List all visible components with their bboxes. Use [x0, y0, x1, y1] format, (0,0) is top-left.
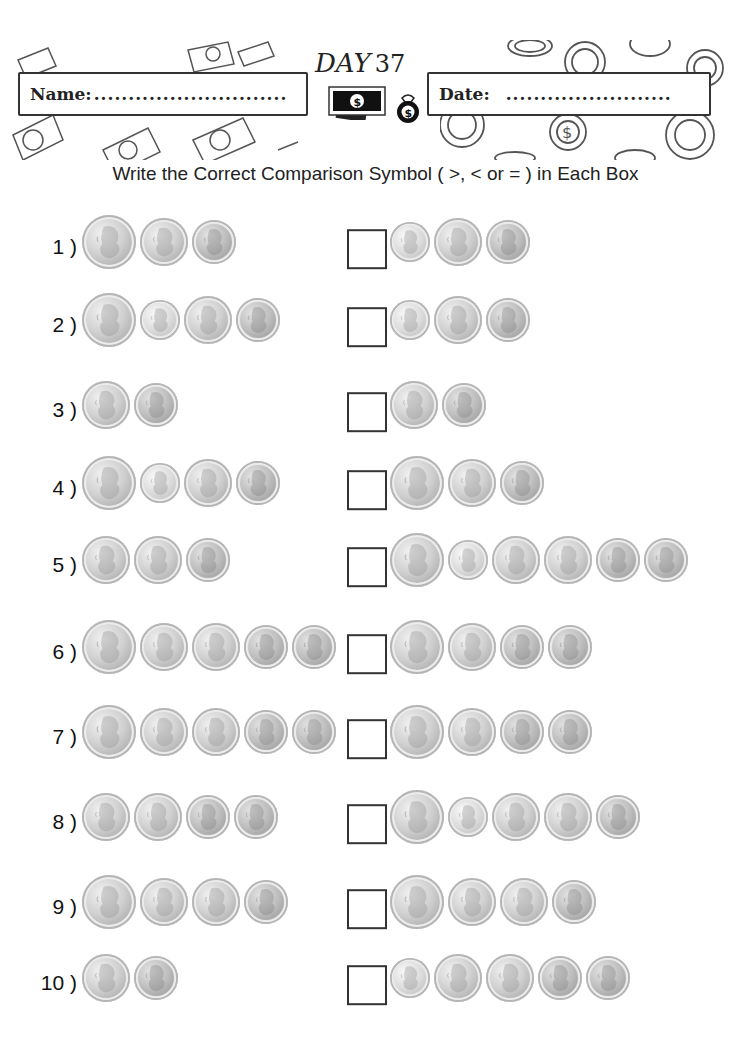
dime-coin-icon: [140, 463, 180, 503]
answer-box[interactable]: [347, 307, 387, 347]
dime-coin-icon: [140, 300, 180, 340]
penny-coin-icon: [486, 298, 530, 342]
nickel-coin-icon: [500, 878, 548, 926]
right-coin-group: [390, 872, 596, 932]
answer-box[interactable]: [347, 392, 387, 432]
nickel-coin-icon: [192, 708, 240, 756]
penny-coin-icon: [500, 461, 544, 505]
problem-row: 3 ): [0, 375, 751, 435]
left-coin-group: [82, 702, 336, 762]
penny-coin-icon: [596, 795, 640, 839]
left-coin-group: [82, 617, 336, 677]
problem-row: 10 ): [0, 948, 751, 1008]
problem-row: 9 ): [0, 872, 751, 932]
worksheet-header: $ Name: ............................ DAY…: [0, 40, 751, 160]
problem-row: 1 ): [0, 212, 751, 272]
date-field[interactable]: Date: ........................: [427, 72, 711, 116]
nickel-coin-icon: [134, 536, 182, 584]
money-bag-icon: $: [392, 92, 424, 128]
left-coin-group: [82, 375, 178, 435]
answer-box[interactable]: [347, 229, 387, 269]
nickel-coin-icon: [134, 793, 182, 841]
penny-coin-icon: [236, 298, 280, 342]
quarter-coin-icon: [82, 456, 136, 510]
nickel-coin-icon: [544, 536, 592, 584]
day-title: DAY37: [315, 48, 405, 78]
nickel-coin-icon: [140, 878, 188, 926]
quarter-coin-icon: [82, 620, 136, 674]
nickel-coin-icon: [434, 296, 482, 344]
penny-coin-icon: [586, 956, 630, 1000]
penny-coin-icon: [292, 625, 336, 669]
answer-box[interactable]: [347, 547, 387, 587]
right-coin-group: [390, 948, 630, 1008]
name-blank-line: ............................: [94, 84, 288, 104]
nickel-coin-icon: [448, 708, 496, 756]
penny-coin-icon: [186, 795, 230, 839]
quarter-coin-icon: [82, 705, 136, 759]
answer-box[interactable]: [347, 634, 387, 674]
answer-box[interactable]: [347, 470, 387, 510]
penny-coin-icon: [236, 461, 280, 505]
penny-coin-icon: [244, 625, 288, 669]
dime-coin-icon: [448, 797, 488, 837]
quarter-coin-icon: [82, 293, 136, 347]
name-field[interactable]: Name: ............................: [18, 72, 308, 116]
penny-coin-icon: [552, 880, 596, 924]
dime-coin-icon: [390, 300, 430, 340]
right-coin-group: [390, 702, 592, 762]
left-coin-group: [82, 948, 178, 1008]
nickel-coin-icon: [544, 793, 592, 841]
penny-coin-icon: [486, 220, 530, 264]
answer-box[interactable]: [347, 965, 387, 1005]
problem-number: 2 ): [52, 313, 77, 337]
penny-coin-icon: [244, 710, 288, 754]
problem-number: 6 ): [52, 640, 77, 664]
dime-coin-icon: [448, 540, 488, 580]
nickel-coin-icon: [140, 218, 188, 266]
problem-number: 9 ): [52, 895, 77, 919]
nickel-coin-icon: [184, 459, 232, 507]
nickel-coin-icon: [82, 381, 130, 429]
problem-row: 7 ): [0, 702, 751, 762]
date-label: Date:: [439, 84, 490, 104]
answer-box[interactable]: [347, 889, 387, 929]
penny-coin-icon: [192, 220, 236, 264]
quarter-coin-icon: [390, 620, 444, 674]
problem-number: 1 ): [52, 235, 77, 259]
penny-coin-icon: [292, 710, 336, 754]
nickel-coin-icon: [192, 878, 240, 926]
nickel-coin-icon: [184, 296, 232, 344]
nickel-coin-icon: [82, 954, 130, 1002]
penny-coin-icon: [596, 538, 640, 582]
nickel-coin-icon: [192, 623, 240, 671]
right-coin-group: [390, 787, 640, 847]
problem-number: 3 ): [52, 398, 77, 422]
problem-row: 4 ): [0, 453, 751, 513]
problem-row: 2 ): [0, 290, 751, 350]
left-coin-group: [82, 453, 280, 513]
nickel-coin-icon: [390, 381, 438, 429]
problem-row: 5 ): [0, 530, 751, 590]
nickel-coin-icon: [434, 954, 482, 1002]
right-coin-group: [390, 212, 530, 272]
problem-number: 4 ): [52, 476, 77, 500]
left-coin-group: [82, 212, 236, 272]
problem-number: 10 ): [41, 971, 77, 995]
name-label: Name:: [30, 84, 92, 104]
answer-box[interactable]: [347, 719, 387, 759]
penny-coin-icon: [548, 710, 592, 754]
problem-number: 8 ): [52, 810, 77, 834]
left-coin-group: [82, 787, 278, 847]
quarter-coin-icon: [82, 875, 136, 929]
penny-coin-icon: [548, 625, 592, 669]
nickel-coin-icon: [486, 954, 534, 1002]
dollar-bill-icon: $: [328, 86, 386, 124]
left-coin-group: [82, 872, 288, 932]
penny-coin-icon: [500, 625, 544, 669]
answer-box[interactable]: [347, 804, 387, 844]
right-coin-group: [390, 290, 530, 350]
nickel-coin-icon: [140, 708, 188, 756]
penny-coin-icon: [134, 956, 178, 1000]
problem-number: 5 ): [52, 553, 77, 577]
